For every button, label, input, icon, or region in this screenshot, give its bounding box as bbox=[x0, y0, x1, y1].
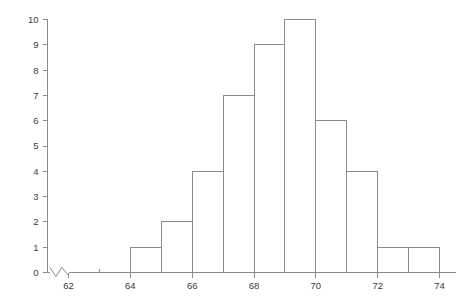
histogram-bar: 66-67: 4 bbox=[192, 171, 223, 272]
y-tick-label: 9 bbox=[33, 39, 38, 50]
y-tick-label: 4 bbox=[33, 166, 38, 177]
y-tick-label: 1 bbox=[33, 242, 38, 253]
x-tick-label: 74 bbox=[434, 280, 445, 291]
histogram-bar: 68-69: 9 bbox=[254, 45, 285, 273]
histogram-bar: 64-65: 1 bbox=[130, 247, 161, 272]
y-tick-labels: 012345678910 bbox=[28, 14, 39, 278]
bars-group: 64-65: 165-66: 266-67: 467-68: 768-69: 9… bbox=[130, 20, 439, 273]
y-tick-label: 3 bbox=[33, 191, 38, 202]
y-tick-label: 8 bbox=[33, 65, 38, 76]
y-tick-label: 6 bbox=[33, 115, 38, 126]
histogram-bar: 70-71: 6 bbox=[316, 121, 347, 273]
x-tick-label: 68 bbox=[249, 280, 260, 291]
y-tick-label: 5 bbox=[33, 140, 38, 151]
histogram-bar: 69-70: 10 bbox=[285, 20, 316, 273]
y-tick-label: 2 bbox=[33, 216, 38, 227]
axis-break-icon bbox=[50, 268, 69, 277]
x-tick-label: 64 bbox=[125, 280, 136, 291]
histogram-bar: 65-66: 2 bbox=[161, 222, 192, 273]
x-tick-label: 72 bbox=[372, 280, 383, 291]
x-tick-label: 66 bbox=[187, 280, 198, 291]
histogram-bar: 67-68: 7 bbox=[223, 95, 254, 272]
histogram-bar: 72-73: 1 bbox=[378, 247, 409, 272]
histogram-chart: 64-65: 165-66: 266-67: 467-68: 768-69: 9… bbox=[0, 0, 463, 306]
x-tick-label: 70 bbox=[311, 280, 322, 291]
y-tick-label: 7 bbox=[33, 90, 38, 101]
histogram-bar: 73-74: 1 bbox=[409, 247, 440, 272]
x-tick-label: 62 bbox=[63, 280, 74, 291]
chart-canvas: 64-65: 165-66: 266-67: 467-68: 768-69: 9… bbox=[0, 0, 463, 306]
y-tick-label: 0 bbox=[33, 267, 38, 278]
y-axis-group bbox=[43, 20, 48, 273]
x-tick-labels: 62646668707274 bbox=[63, 280, 445, 291]
histogram-bar: 71-72: 4 bbox=[347, 171, 378, 272]
y-tick-label: 10 bbox=[28, 14, 39, 25]
